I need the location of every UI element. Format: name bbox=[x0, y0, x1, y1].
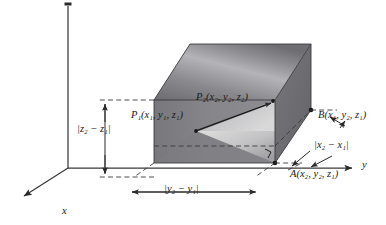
label-point-a: A(x₂, y₂, z₁) bbox=[290, 169, 338, 180]
dash-base-right bbox=[255, 163, 275, 177]
x-axis bbox=[24, 168, 68, 196]
label-point-b: B(x₁, y₂, z₁) bbox=[318, 110, 366, 121]
z-axis-tip-cap bbox=[65, 3, 72, 6]
rectangular-box bbox=[154, 44, 311, 163]
label-dimension-dz: |z₂ − z₁| bbox=[77, 124, 111, 135]
label-dimension-dy: |y₂ − y₁| bbox=[164, 184, 199, 195]
leader-arrow-a bbox=[292, 151, 310, 166]
label-axis-y: y bbox=[362, 160, 367, 171]
label-axis-x: x bbox=[62, 206, 67, 217]
figure-canvas: P₂(x₂, y₂, z₂) P₁(x₁, y₁, z₁) B(x₁, y₂, … bbox=[0, 0, 386, 225]
label-dimension-dx: |x₂ − x₁| bbox=[314, 140, 349, 151]
label-point-p1: P₁(x₁, y₁, z₁) bbox=[131, 110, 183, 121]
dash-base-left bbox=[134, 163, 154, 177]
label-point-p2: P₂(x₂, y₂, z₂) bbox=[196, 92, 248, 103]
